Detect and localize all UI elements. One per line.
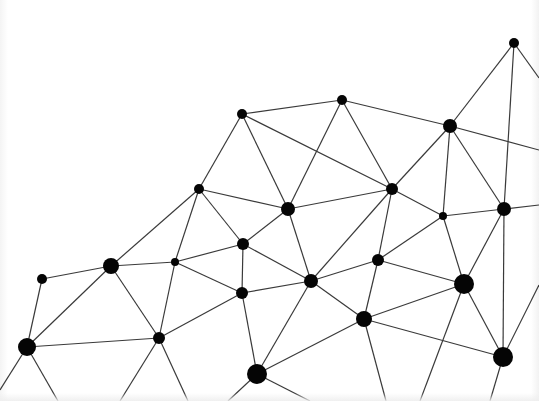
graph-edge	[27, 279, 42, 347]
graph-edge	[242, 281, 311, 293]
graph-edge	[159, 262, 175, 338]
graph-node-n4	[443, 119, 457, 133]
graph-edge	[464, 209, 504, 284]
graph-node-n7	[281, 202, 295, 216]
graph-edge	[288, 100, 342, 209]
graph-edge	[311, 260, 378, 281]
graph-node-n12	[103, 258, 119, 274]
graph-edge	[378, 216, 443, 260]
graph-edge	[364, 260, 378, 319]
graph-edge	[514, 43, 539, 78]
graph-edge	[27, 338, 159, 347]
graph-edge	[311, 281, 364, 319]
graph-edge	[464, 284, 503, 357]
graph-node-n6	[386, 183, 398, 195]
graph-node-n9	[497, 202, 511, 216]
graph-edge	[378, 189, 392, 260]
graph-node-n22	[247, 364, 267, 384]
graph-edge	[443, 126, 450, 216]
graph-node-n1	[509, 38, 519, 48]
graph-edge	[420, 284, 464, 401]
graph-edge	[392, 189, 443, 216]
graph-edge	[27, 347, 58, 401]
network-graph-svg	[0, 0, 539, 401]
graph-node-n11	[171, 258, 179, 266]
graph-edge	[120, 338, 159, 401]
graph-node-n8	[439, 212, 447, 220]
graph-edge	[111, 262, 175, 266]
graph-edge	[364, 284, 464, 319]
graph-node-n19	[153, 332, 165, 344]
graph-edge	[443, 216, 464, 284]
edge-layer	[0, 43, 539, 401]
graph-node-n18	[356, 311, 372, 327]
graph-node-n17	[236, 287, 248, 299]
graph-edge	[378, 260, 464, 284]
graph-edge	[242, 114, 288, 209]
graph-edge	[159, 338, 188, 401]
graph-edge	[243, 209, 288, 244]
graph-edge	[42, 266, 111, 279]
graph-edge	[111, 266, 159, 338]
graph-node-n15	[304, 274, 318, 288]
graph-edge	[504, 43, 514, 209]
graph-edge	[159, 293, 242, 338]
graph-edge	[199, 114, 242, 189]
graph-edge	[364, 319, 503, 357]
graph-node-n3	[237, 109, 247, 119]
graph-edge	[242, 244, 243, 293]
graph-edge	[503, 209, 504, 357]
graph-node-n16	[454, 274, 474, 294]
graph-node-n2	[337, 95, 347, 105]
graph-node-n21	[493, 347, 513, 367]
graph-node-n10	[237, 238, 249, 250]
graph-edge	[443, 209, 504, 216]
graph-edge	[242, 100, 342, 114]
graph-edge	[175, 262, 242, 293]
graph-edge	[503, 285, 539, 357]
graph-node-n20	[18, 338, 36, 356]
graph-edge	[342, 100, 450, 126]
graph-edge	[392, 126, 450, 189]
graph-node-n14	[372, 254, 384, 266]
graph-edge	[242, 293, 257, 374]
graph-node-n13	[37, 274, 47, 284]
network-diagram	[0, 0, 539, 401]
graph-edge	[175, 244, 243, 262]
graph-edge	[342, 100, 392, 189]
graph-edge	[450, 43, 514, 126]
graph-node-n5	[194, 184, 204, 194]
graph-edge	[364, 319, 386, 401]
